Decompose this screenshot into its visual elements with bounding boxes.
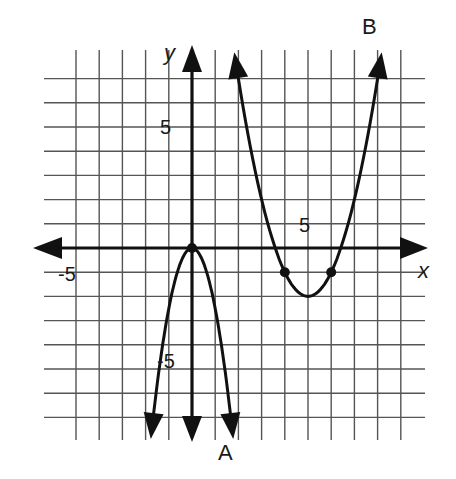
- x-axis-right-arrow: [400, 237, 428, 259]
- marked-point: [187, 243, 197, 253]
- marked-point: [280, 267, 290, 277]
- curve-arrows: [144, 52, 388, 439]
- curve-a-right-arrow: [220, 412, 240, 439]
- x-tick-5: 5: [299, 214, 310, 237]
- y-axis-up-arrow: [182, 45, 202, 72]
- axes: [33, 45, 428, 442]
- y-tick-5: 5: [160, 116, 171, 139]
- grid-lines: [44, 50, 425, 440]
- curve-b-label: B: [362, 14, 377, 40]
- x-tick-neg5: -5: [58, 263, 76, 286]
- y-axis-label: y: [164, 40, 175, 66]
- curve-a-left-arrow: [144, 412, 164, 439]
- coordinate-plane: [0, 0, 456, 479]
- marked-point: [326, 267, 336, 277]
- y-axis-down-arrow: [182, 416, 202, 442]
- y-tick-neg5: -5: [157, 350, 175, 373]
- x-axis-label: x: [418, 258, 429, 284]
- curve-a-label: A: [218, 440, 233, 466]
- curves: [152, 64, 380, 427]
- x-axis-left-arrow: [33, 237, 62, 259]
